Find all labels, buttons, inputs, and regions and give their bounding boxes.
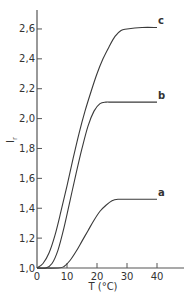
y-tick-label: 1,0 — [19, 263, 35, 274]
curve-labels: cba — [158, 15, 165, 198]
x-tick-label: 10 — [61, 271, 74, 282]
y-tick-label: 2,0 — [19, 113, 35, 124]
curve-label-c: c — [158, 15, 164, 26]
y-tick-label: 1,4 — [19, 203, 35, 214]
x-axis-label: T (°C) — [87, 281, 117, 292]
x-tick-label: 40 — [151, 271, 164, 282]
curve-label-b: b — [158, 90, 165, 101]
chart-container: 1,01,21,41,61,82,02,22,42,6 010203040 cb… — [0, 0, 191, 298]
y-tick-label: 1,2 — [19, 233, 35, 244]
data-curves — [37, 27, 157, 268]
y-tick-label: 2,6 — [19, 23, 35, 34]
y-tick-label: 1,8 — [19, 143, 35, 154]
line-chart: 1,01,21,41,61,82,02,22,42,6 010203040 cb… — [0, 0, 191, 298]
y-axis-label: Ir — [5, 137, 19, 143]
x-axis-ticks: 010203040 — [34, 263, 164, 282]
y-tick-label: 1,6 — [19, 173, 35, 184]
y-tick-label: 2,4 — [19, 53, 35, 64]
curve-label-a: a — [158, 187, 165, 198]
y-axis-label-group: Ir — [5, 137, 19, 143]
x-tick-label: 30 — [121, 271, 134, 282]
curve-c — [37, 27, 157, 268]
y-axis-label-subscript: r — [11, 137, 19, 140]
curve-b — [37, 102, 157, 268]
y-axis-ticks: 1,01,21,41,61,82,02,22,42,6 — [19, 23, 42, 273]
y-tick-label: 2,2 — [19, 83, 35, 94]
axes — [37, 10, 184, 268]
x-tick-label: 0 — [34, 271, 40, 282]
